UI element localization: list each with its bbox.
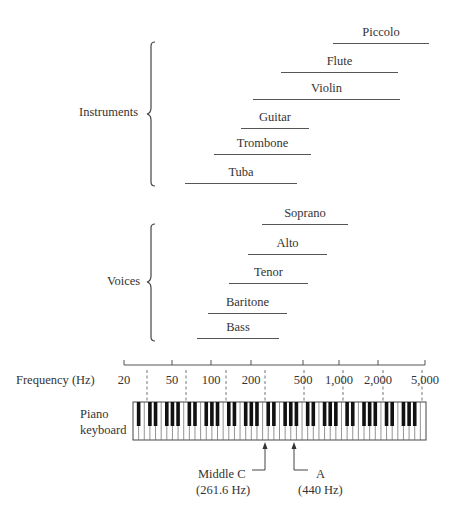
- range-line-flute: [281, 72, 398, 73]
- range-label-violin: Violin: [311, 81, 342, 96]
- range-line-tenor: [229, 283, 308, 284]
- range-line-bass: [197, 338, 279, 339]
- range-line-violin: [253, 99, 400, 100]
- tick-label: 200: [242, 373, 261, 388]
- range-label-alto: Alto: [276, 236, 298, 251]
- piano-keyboard: [133, 402, 426, 440]
- range-line-guitar: [241, 128, 309, 129]
- range-label-baritone: Baritone: [226, 295, 269, 310]
- instruments-brace-icon: [147, 42, 155, 186]
- tick-label: 5,000: [411, 373, 439, 388]
- range-label-flute: Flute: [327, 54, 353, 69]
- tick-label: 20: [118, 373, 131, 388]
- tick-label: 100: [202, 373, 221, 388]
- range-label-bass: Bass: [226, 320, 250, 335]
- range-line-piccolo: [333, 43, 429, 44]
- middle-c-label: Middle C: [198, 467, 246, 482]
- range-label-soprano: Soprano: [284, 206, 326, 221]
- range-label-tenor: Tenor: [254, 265, 283, 280]
- voices-brace-icon: [147, 224, 155, 341]
- range-label-trombone: Trombone: [237, 136, 289, 151]
- tick-label: 50: [166, 373, 179, 388]
- keyboard-label-line1: Piano: [80, 407, 108, 422]
- range-label-tuba: Tuba: [228, 165, 253, 180]
- braces-and-axis-graphics: [0, 0, 465, 518]
- range-line-baritone: [208, 313, 287, 314]
- range-label-guitar: Guitar: [259, 110, 291, 125]
- range-line-trombone: [214, 154, 311, 155]
- middle-c-frequency: (261.6 Hz): [196, 483, 250, 498]
- range-line-tuba: [185, 183, 297, 184]
- a440-frequency: (440 Hz): [298, 483, 343, 498]
- tick-label: 500: [294, 373, 313, 388]
- tick-label: 1,000: [325, 373, 353, 388]
- keyboard-label-line2: keyboard: [80, 423, 127, 438]
- frequency-axis-label: Frequency (Hz): [16, 373, 95, 388]
- a440-label: A: [316, 467, 325, 482]
- range-line-alto: [248, 254, 327, 255]
- annotation-arrows: [252, 442, 308, 470]
- tick-label: 2,000: [364, 373, 392, 388]
- range-label-piccolo: Piccolo: [362, 25, 400, 40]
- range-line-soprano: [262, 224, 348, 225]
